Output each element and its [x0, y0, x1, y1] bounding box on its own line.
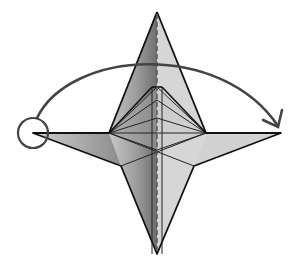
origami-diagram: [0, 0, 295, 266]
